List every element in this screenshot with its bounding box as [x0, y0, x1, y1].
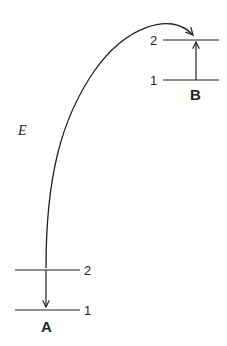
b-level-1-label: 1	[150, 73, 157, 88]
a-system-label: A	[41, 318, 52, 335]
a-level-1-label: 1	[84, 303, 91, 318]
energy-transfer-arrow	[46, 24, 193, 268]
energy-transfer-diagram: 2 1 B E 2 1 A	[0, 0, 227, 346]
energy-label: E	[17, 123, 27, 138]
system-a: 2 1 A	[15, 263, 91, 335]
a-level-2-label: 2	[84, 263, 91, 278]
b-level-2-label: 2	[150, 33, 157, 48]
b-system-label: B	[190, 86, 201, 103]
system-b: 2 1 B	[150, 33, 219, 103]
